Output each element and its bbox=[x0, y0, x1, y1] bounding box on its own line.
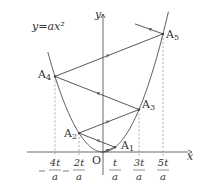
tick-label: 3ta bbox=[133, 157, 145, 182]
svg-text:4t: 4t bbox=[49, 157, 61, 168]
point-dot bbox=[162, 33, 164, 35]
svg-text:a: a bbox=[76, 171, 82, 182]
point-labels: A1A2A3A4A5 bbox=[37, 28, 179, 153]
tick-label: 4ta bbox=[39, 157, 61, 182]
point-dot bbox=[54, 75, 56, 77]
point-label-a1: A1 bbox=[120, 139, 134, 153]
svg-text:2t: 2t bbox=[73, 157, 85, 168]
point-label-a2: A2 bbox=[63, 127, 77, 141]
x-axis-label: x bbox=[187, 150, 194, 163]
svg-text:5t: 5t bbox=[158, 157, 169, 168]
svg-text:a: a bbox=[160, 171, 166, 182]
svg-text:t: t bbox=[113, 157, 118, 168]
tick-label: 5ta bbox=[157, 157, 169, 182]
svg-text:a: a bbox=[112, 171, 118, 182]
point-dot bbox=[114, 146, 116, 148]
tick-label: 2ta bbox=[63, 157, 85, 182]
y-axis-label: y bbox=[94, 8, 102, 21]
point-label-a5: A5 bbox=[165, 28, 179, 42]
parabola-diagram: y=ax² y x O A1A2A3A4A5 4ta2tata3ta5ta bbox=[0, 0, 200, 195]
point-dot bbox=[138, 108, 140, 110]
curve-label: y=ax² bbox=[31, 20, 65, 33]
point-label-a3: A3 bbox=[141, 98, 155, 112]
svg-text:a: a bbox=[136, 171, 142, 182]
point-label-a4: A4 bbox=[37, 68, 51, 82]
direction-arrows bbox=[97, 29, 152, 152]
svg-text:a: a bbox=[52, 171, 58, 182]
origin-label: O bbox=[92, 154, 101, 167]
svg-text:3t: 3t bbox=[134, 157, 145, 168]
tick-labels: 4ta2tata3ta5ta bbox=[39, 157, 169, 182]
point-dot bbox=[78, 132, 80, 134]
tick-label: ta bbox=[109, 157, 121, 182]
